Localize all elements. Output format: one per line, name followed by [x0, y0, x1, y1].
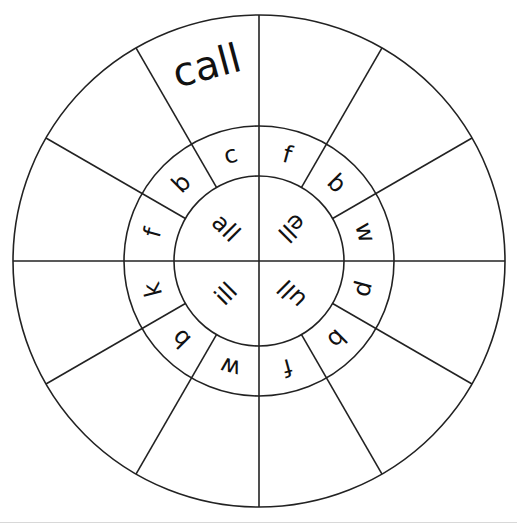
onset-letter: b — [166, 168, 197, 199]
page-bottom-divider — [0, 522, 517, 523]
rime-label-ill: ill — [209, 277, 243, 311]
onset-letter: p — [350, 278, 381, 300]
rime-label-all: all — [206, 208, 246, 248]
onset-letter: w — [217, 351, 243, 383]
rime-label-ull: ull — [272, 274, 312, 314]
onset-letter: k — [137, 279, 168, 300]
onset-letter: f — [138, 224, 167, 240]
onset-letter: c — [221, 140, 241, 170]
onset-letter: b — [166, 323, 197, 354]
onset-letter: f — [280, 140, 296, 169]
word-family-wheel: allellullill fbwpbfwbkfbc call — [0, 0, 517, 525]
onset-letter: b — [321, 323, 352, 354]
rime-label-ell: ell — [272, 208, 312, 248]
onset-letter: w — [349, 219, 381, 245]
onset-letter: b — [321, 168, 352, 199]
onset-letter: f — [279, 353, 295, 382]
